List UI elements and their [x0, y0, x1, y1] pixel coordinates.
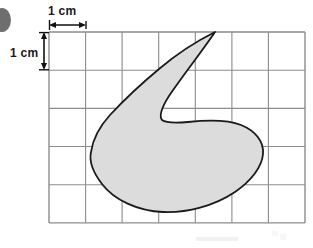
horizontal-scale-arrow [49, 20, 86, 30]
horizontal-scale-label: 1 cm [48, 4, 77, 18]
figure-canvas: 1 cm 1 cm [0, 0, 313, 248]
footer-smudges [196, 231, 286, 241]
page-corner-dot [0, 8, 11, 32]
vertical-scale-label: 1 cm [10, 46, 39, 60]
grid-and-shape-svg [0, 0, 313, 248]
irregular-blob-shape [90, 32, 263, 212]
vertical-scale-arrow [39, 32, 49, 70]
